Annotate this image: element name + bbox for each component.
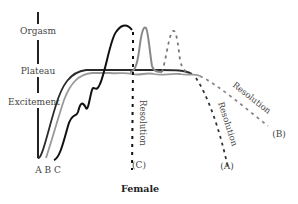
- resolution-label-c: Resolution: [138, 100, 148, 146]
- curve-dotted-peak: [162, 31, 190, 74]
- response-cycle-diagram: Orgasm Plateau Excitement Resolution Res…: [0, 0, 298, 204]
- resolution-c-line: [132, 32, 133, 170]
- curves-start-label: A B C: [34, 165, 61, 175]
- curve-c: [54, 26, 132, 160]
- stage-label-plateau: Plateau: [21, 66, 56, 76]
- diagram-title: Female: [121, 183, 159, 194]
- resolution-label-b: Resolution: [231, 80, 274, 116]
- curve-label-b: (B): [272, 129, 286, 139]
- stage-label-orgasm: Orgasm: [20, 26, 56, 36]
- stage-label-excitement: Excitement: [8, 97, 60, 107]
- curve-a: [38, 70, 192, 158]
- curve-label-a: (A): [220, 161, 234, 171]
- resolution-label-a: Resolution: [216, 101, 240, 148]
- curve-b-orgasm-peak: [130, 28, 162, 72]
- curve-b: [46, 73, 200, 158]
- curve-label-c: (C): [132, 160, 146, 170]
